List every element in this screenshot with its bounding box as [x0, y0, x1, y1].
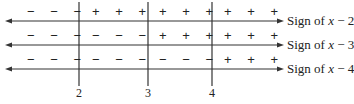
arrow-left-icon [5, 43, 12, 48]
sign-cell: + + + [224, 28, 284, 43]
row-label-x-minus-2: Sign of x − 2 [287, 13, 354, 29]
arrow-left-icon [5, 19, 12, 24]
sign-cell: − − − [92, 52, 152, 67]
sign-cell: − − − [159, 52, 219, 67]
sign-cell: + + + [159, 4, 219, 19]
tick-label-4: 4 [209, 86, 215, 101]
row-label-x-minus-3: Sign of x − 3 [287, 37, 354, 53]
tick-label-3: 3 [145, 86, 151, 101]
arrow-right-icon [277, 67, 284, 72]
sign-cell: − − − [27, 28, 87, 43]
sign-cell: + + + [224, 52, 284, 67]
arrow-right-icon [277, 19, 284, 24]
row-label-x-minus-4: Sign of x − 4 [287, 61, 354, 77]
sign-cell: + + + [92, 4, 152, 19]
arrow-left-icon [5, 67, 12, 72]
sign-cell: − − − [27, 4, 87, 19]
arrow-right-icon [277, 43, 284, 48]
sign-cell: + + + [224, 4, 284, 19]
tick-label-2: 2 [76, 86, 82, 101]
sign-cell: + + + [159, 28, 219, 43]
sign-cell: − − − [92, 28, 152, 43]
sign-cell: − − − [27, 52, 87, 67]
